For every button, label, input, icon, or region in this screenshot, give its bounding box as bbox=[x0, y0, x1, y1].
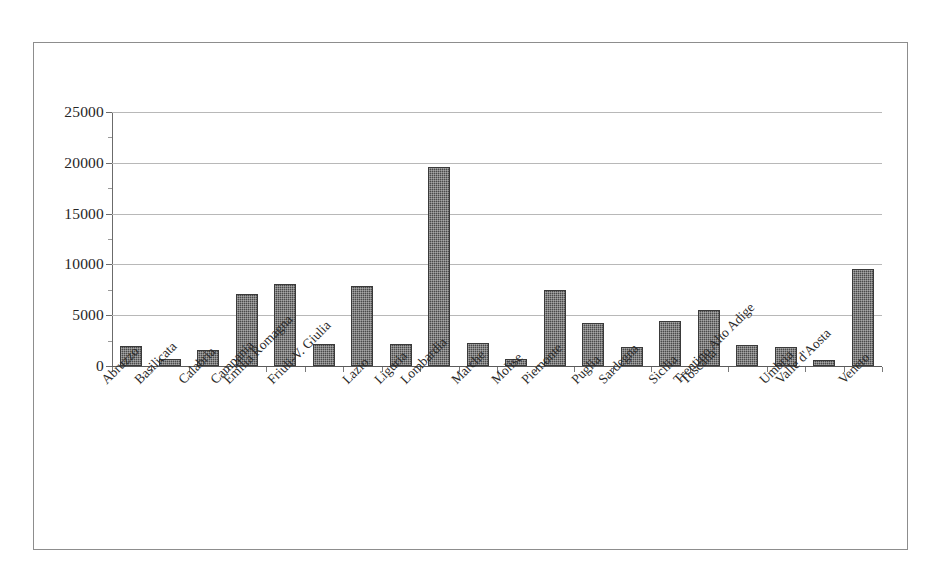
x-axis-tick bbox=[882, 367, 883, 372]
gridline bbox=[112, 112, 882, 113]
bar[interactable] bbox=[313, 344, 335, 366]
x-axis-tick bbox=[805, 367, 806, 372]
y-axis-tick-label: 0 bbox=[38, 358, 104, 374]
gridline bbox=[112, 264, 882, 265]
y-axis-tick-label: 10000 bbox=[38, 257, 104, 273]
y-axis-minor-tick bbox=[108, 239, 112, 240]
y-axis-labels: 2500020000150001000050000 bbox=[34, 43, 104, 549]
gridline bbox=[112, 214, 882, 215]
y-axis-tick bbox=[106, 366, 112, 367]
y-axis-tick bbox=[106, 264, 112, 265]
category-axis-labels: AbruzzoBasilicataCalabriaCampaniaEmilia … bbox=[112, 373, 882, 523]
y-axis-tick-label: 20000 bbox=[38, 155, 104, 171]
y-axis-minor-tick bbox=[108, 137, 112, 138]
y-axis-minor-tick bbox=[108, 290, 112, 291]
x-axis-tick bbox=[305, 367, 306, 372]
plot-area bbox=[112, 112, 882, 366]
bar[interactable] bbox=[736, 345, 758, 366]
bar[interactable] bbox=[351, 286, 373, 366]
y-axis-tick-label: 5000 bbox=[38, 307, 104, 323]
x-axis-tick bbox=[728, 367, 729, 372]
y-axis-tick bbox=[106, 315, 112, 316]
y-axis-tick bbox=[106, 163, 112, 164]
y-axis-tick-label: 15000 bbox=[38, 206, 104, 222]
x-axis-tick bbox=[266, 367, 267, 372]
bar[interactable] bbox=[813, 360, 835, 366]
y-axis-tick bbox=[106, 214, 112, 215]
y-axis-minor-tick bbox=[108, 188, 112, 189]
gridline bbox=[112, 315, 882, 316]
y-axis-minor-tick bbox=[108, 341, 112, 342]
y-axis-tick bbox=[106, 112, 112, 113]
chart-frame: 2500020000150001000050000 AbruzzoBasilic… bbox=[33, 42, 908, 550]
gridline bbox=[112, 163, 882, 164]
y-axis-tick-label: 25000 bbox=[38, 104, 104, 120]
